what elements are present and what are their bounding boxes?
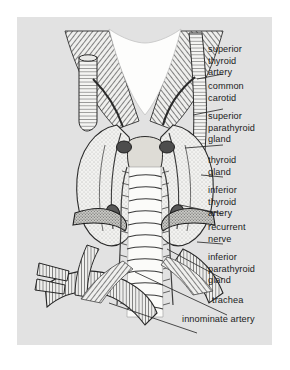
- label-superior-thyroid-artery: superior thyroid artery: [208, 44, 242, 79]
- label-layer: superior thyroid artery common carotid s…: [17, 17, 272, 345]
- label-trachea: trachea: [212, 295, 243, 307]
- label-recurrent-nerve: recurrent nerve: [208, 222, 246, 245]
- label-thyroid-gland: thyroid gland: [208, 155, 236, 178]
- label-common-carotid: common carotid: [208, 81, 244, 104]
- label-superior-parathyroid-gland: superior parathyroid gland: [208, 111, 255, 146]
- label-innominate-artery: innominate artery: [182, 314, 255, 326]
- illustration-panel: superior thyroid artery common carotid s…: [17, 17, 272, 345]
- label-inferior-thyroid-artery: inferior thyroid artery: [208, 185, 237, 220]
- label-inferior-parathyroid-gland: inferior parathyroid gland: [208, 252, 255, 287]
